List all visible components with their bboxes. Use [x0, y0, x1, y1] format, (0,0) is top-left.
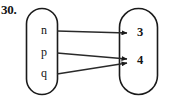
mapping-diagram-svg: n p q 3 4 [0, 0, 171, 101]
range-element-4: 4 [137, 53, 144, 67]
range-oval [120, 9, 158, 95]
range-element-3: 3 [137, 25, 143, 39]
mapping-arrow-n-to-3 [57, 31, 127, 33]
mapping-arrow-p-to-4 [57, 53, 127, 59]
mapping-diagram-figure: 30. n p q 3 4 [0, 0, 171, 101]
domain-element-p: p [41, 45, 47, 59]
mapping-arrow-q-to-4 [57, 63, 127, 74]
domain-element-n: n [41, 23, 47, 37]
domain-element-q: q [41, 66, 47, 80]
